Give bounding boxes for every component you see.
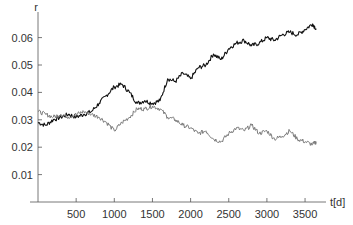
x-tick-label: 2000 xyxy=(178,208,202,220)
line-chart: 0.010.020.030.040.050.06 r 5001000150020… xyxy=(0,0,353,225)
y-tick-label: 0.02 xyxy=(12,141,33,153)
x-tick-label: 2500 xyxy=(217,208,241,220)
x-tick-label: 1000 xyxy=(102,208,126,220)
y-tick-label: 0.01 xyxy=(12,169,33,181)
x-tick-label: 3500 xyxy=(293,208,317,220)
x-axis-label: t[d] xyxy=(330,196,345,208)
y-tick-label: 0.06 xyxy=(12,32,33,44)
x-tick-label: 1500 xyxy=(140,208,164,220)
x-tick-label: 3000 xyxy=(255,208,279,220)
x-tick-label: 500 xyxy=(67,208,85,220)
y-tick-label: 0.04 xyxy=(12,86,33,98)
y-tick-label: 0.05 xyxy=(12,59,33,71)
y-axis: 0.010.020.030.040.050.06 r xyxy=(12,1,42,202)
series-gray-line xyxy=(38,105,317,146)
y-tick-label: 0.03 xyxy=(12,114,33,126)
y-axis-label: r xyxy=(34,1,38,13)
x-axis: 500100015002000250030003500 t[d] xyxy=(30,196,345,220)
series-black-line xyxy=(38,24,317,126)
series-lines xyxy=(38,24,317,145)
